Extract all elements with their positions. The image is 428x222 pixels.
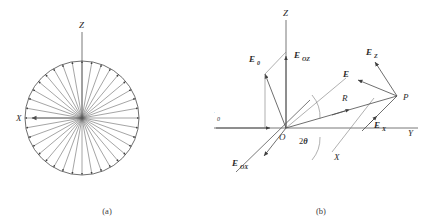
angle-arc-upper: [312, 95, 320, 119]
caption-b: (b): [214, 206, 428, 216]
oblique-ray-upper: [286, 78, 346, 128]
label-P: P: [402, 92, 409, 102]
axis-label-x-a: X: [15, 113, 22, 123]
panel-a: Z X (a): [0, 0, 214, 222]
caption-a: (a): [0, 206, 214, 216]
label-EZ-sub: Z: [373, 53, 378, 59]
label-2theta: 2θ: [299, 136, 308, 146]
parallelogram-edge-top: [265, 52, 286, 74]
label-EOX: E: [231, 158, 238, 168]
vector-R-arrowhead: [332, 110, 348, 115]
radial-spokes: [25, 61, 139, 175]
label-EOX-sub: OX: [240, 164, 249, 170]
label-EOZ: E: [293, 50, 300, 60]
label-E0-sub: 0: [257, 60, 260, 66]
label-EX: E: [373, 120, 380, 130]
angle-arc-lower: [312, 137, 320, 160]
incident-beam-label: I: [214, 110, 215, 120]
panel-a-canvas: Z X: [0, 0, 214, 222]
label-EX-sub: X: [381, 126, 387, 132]
vector-E: [358, 80, 397, 96]
vector-EZ: [375, 62, 397, 96]
axis-label-z-a: Z: [79, 20, 85, 30]
label-E: E: [342, 69, 349, 79]
axis-label-z-b: Z: [283, 8, 289, 18]
figure-root: Z X (a) Z Y X: [0, 0, 428, 222]
vector-E0: [265, 74, 286, 128]
origin-label: O: [279, 132, 286, 142]
label-E0: E: [248, 54, 255, 64]
label-EZ: E: [365, 47, 372, 57]
axis-label-x-b: X: [333, 152, 340, 162]
label-R: R: [341, 93, 348, 103]
label-EOZ-sub: OZ: [302, 56, 310, 62]
panel-b: Z Y X I 0 O E 0: [214, 0, 428, 222]
incident-beam-sublabel: 0: [217, 116, 220, 122]
panel-b-canvas: Z Y X I 0 O E 0: [214, 0, 428, 222]
axis-label-y-b: Y: [408, 128, 414, 138]
